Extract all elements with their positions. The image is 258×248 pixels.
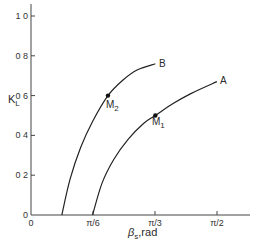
curve-label-b: B xyxy=(159,58,166,69)
curve-b xyxy=(62,64,156,215)
curves xyxy=(62,64,217,215)
y-tick-label: 1 0 xyxy=(15,11,28,21)
y-tick-label: 0 8 xyxy=(15,51,28,61)
x-ticks: 0π/6π/3π/2 xyxy=(28,211,223,228)
point-label-m2: M2 xyxy=(106,99,119,113)
x-tick-label: 0 xyxy=(28,218,33,228)
y-tick-label: 0 2 xyxy=(15,170,28,180)
y-tick-label: 0 4 xyxy=(15,130,28,140)
y-tick-label: 0 xyxy=(23,210,28,220)
point-label-m1: M1 xyxy=(152,116,165,130)
point-m2 xyxy=(106,93,110,97)
x-tick-label: π/2 xyxy=(210,218,224,228)
chart-canvas: 00 20 40 60 81 0 0π/6π/3π/2 B A M2 M1 KL… xyxy=(0,0,258,248)
x-axis-title: βs,rad xyxy=(127,226,157,241)
curve-label-a: A xyxy=(220,75,227,86)
y-ticks: 00 20 40 60 81 0 xyxy=(15,11,35,220)
x-tick-label: π/6 xyxy=(86,218,100,228)
